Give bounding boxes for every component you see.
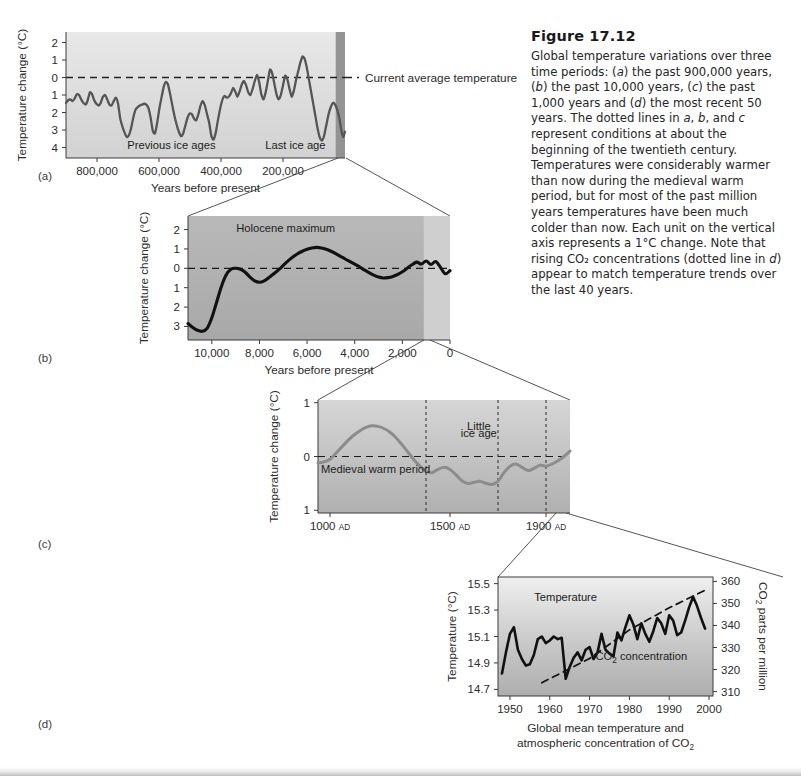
panel-a-xtick: 400,000 xyxy=(200,165,242,177)
panel-d-annotation: Temperature xyxy=(534,591,597,603)
panel-d-ytick-right: 350 xyxy=(721,597,740,609)
panel-a-ytick: 4 xyxy=(52,142,59,154)
panel-a-baseline-label: Current average temperature xyxy=(365,71,518,85)
panel-d-ytick-right: 330 xyxy=(721,642,740,654)
panel-d-xtick: 1980 xyxy=(617,703,643,715)
panel-a-ytick: 2 xyxy=(52,107,58,119)
panel-b-xtick: 2,000 xyxy=(388,347,417,359)
panel-b-xtick: 4,000 xyxy=(340,347,369,359)
panel-c-ytick: 1 xyxy=(304,504,310,516)
panel-d-xtick: 1970 xyxy=(577,703,603,715)
panel-b-ytick: 0 xyxy=(174,262,180,274)
panel-d-ytick-left: 15.3 xyxy=(468,604,490,616)
panel-c-ytick: 0 xyxy=(304,451,310,463)
panel-a-zoom-band xyxy=(336,32,345,158)
panel-d-xlabel-line1: Global mean temperature and xyxy=(527,721,684,735)
panel-b-xtick: 6,000 xyxy=(293,347,322,359)
panel-d-ylabel-left: Temperature (°C) xyxy=(445,591,459,682)
panel-a-xtick: 600,000 xyxy=(138,165,180,177)
panel-d-ytick-left: 15.5 xyxy=(468,578,490,590)
panel-b-ytick: 2 xyxy=(174,301,180,313)
panel-a-annotation: Last ice age xyxy=(265,139,325,151)
figure-root: Figure 17.12 Global temperature variatio… xyxy=(0,0,801,776)
panel-c-xtick: 1500 AD xyxy=(430,520,470,532)
panel-a-xtick: 200,000 xyxy=(262,165,304,177)
panel-b-xlabel: Years before present xyxy=(264,363,374,377)
panel-d-ytick-left: 15.1 xyxy=(468,631,490,643)
panel-c-ytick: 1 xyxy=(304,397,310,409)
panel-c-annotation: ice age xyxy=(461,427,497,439)
chart-panel-a: 2101234800,000600,000400,000200,000Curre… xyxy=(0,20,520,190)
panel-a-ytick: 1 xyxy=(52,54,58,66)
panel-b-ytick: 1 xyxy=(174,282,180,294)
panel-b-annotation: Holocene maximum xyxy=(236,222,335,234)
panel-a-annotation: Previous ice ages xyxy=(127,139,216,151)
panel-a-ytick: 1 xyxy=(52,89,58,101)
panel-d-ytick-right: 360 xyxy=(721,575,740,587)
chart-panel-c: 1011000 AD1500 AD1900 ADMedieval warm pe… xyxy=(250,390,650,535)
panel-b-xtick: 8,000 xyxy=(245,347,274,359)
panel-b-ylabel: Temperature change (°C) xyxy=(137,212,151,345)
panel-d-ytick-left: 14.9 xyxy=(468,657,490,669)
panel-b-ytick: 2 xyxy=(174,224,180,236)
panel-a-ylabel: Temperature change (°C) xyxy=(15,29,29,162)
panel-d-ytick-right: 310 xyxy=(721,686,740,698)
panel-d-ylabel-right: CO2 parts per million xyxy=(754,582,770,691)
panel-a-ytick: 3 xyxy=(52,124,58,136)
panel-a-ytick: 0 xyxy=(52,72,58,84)
panel-a-xtick: 800,000 xyxy=(76,165,118,177)
panel-d-xtick: 1950 xyxy=(497,703,523,715)
panel-a-xlabel: Years before present xyxy=(151,181,261,195)
chart-panel-d: 15.515.315.114.914.736035034033032031019… xyxy=(430,565,801,755)
panel-d-xlabel-line2: atmospheric concentration of CO2 xyxy=(517,736,694,752)
panel-b-xtick: 10,000 xyxy=(194,347,229,359)
panel-d-xtick: 2000 xyxy=(696,703,722,715)
panel-b-ytick: 1 xyxy=(174,243,180,255)
panel-b-zoom-band xyxy=(424,216,450,340)
panel-d-xtick: 1990 xyxy=(656,703,682,715)
panel-c-ylabel: Temperature change (°C) xyxy=(267,390,281,523)
panel-c-xtick: 1900 AD xyxy=(526,520,566,532)
panel-c-annotation: Medieval warm period xyxy=(321,463,430,475)
panel-d-xtick: 1960 xyxy=(537,703,563,715)
panel-c-xtick: 1000 AD xyxy=(310,520,350,532)
panel-d-ytick-left: 14.7 xyxy=(468,683,490,695)
panel-b-ytick: 3 xyxy=(174,320,180,332)
panel-d-ytick-right: 340 xyxy=(721,619,740,631)
panel-b-xtick: 0 xyxy=(447,347,453,359)
chart-panel-b: 21012310,0008,0006,0004,0002,0000Holocen… xyxy=(120,205,520,370)
panel-d-ytick-right: 320 xyxy=(721,664,740,676)
panel-a-ytick: 2 xyxy=(52,37,58,49)
page-bottom-edge xyxy=(0,767,801,776)
